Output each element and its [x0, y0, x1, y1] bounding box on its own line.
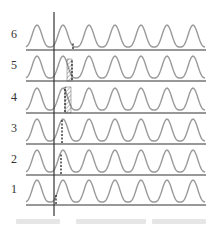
waveform-figure: 654321: [0, 0, 220, 230]
row-4-waveform: [26, 88, 205, 110]
row-label-2: 2: [7, 152, 21, 167]
row-5-hatched-region: [67, 59, 72, 81]
row-label-1: 1: [7, 182, 21, 197]
row-1-waveform: [26, 180, 205, 202]
row-5-waveform: [26, 56, 205, 78]
figure-caption-faded: [16, 219, 206, 225]
row-label-4: 4: [7, 90, 21, 105]
row-4-hatched-region: [65, 87, 71, 113]
row-2-waveform: [26, 150, 205, 172]
waveform-plot: [0, 0, 220, 230]
row-6-waveform: [26, 25, 205, 47]
row-3-waveform: [26, 119, 205, 141]
row-label-6: 6: [7, 27, 21, 42]
row-label-3: 3: [7, 121, 21, 136]
row-label-5: 5: [7, 58, 21, 73]
